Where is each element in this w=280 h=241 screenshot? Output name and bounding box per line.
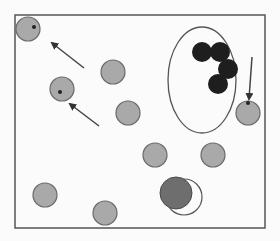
gray-particle (50, 77, 74, 101)
marker-dot (246, 101, 250, 105)
black-particle (208, 74, 228, 94)
gray-particle (16, 17, 40, 41)
gray-particle (93, 201, 117, 225)
gray-particle (116, 101, 140, 125)
motion-arrow (52, 43, 84, 68)
marker-dot (58, 90, 62, 94)
particle-diagram (0, 0, 280, 241)
black-particle (192, 42, 212, 62)
motion-arrow (249, 57, 252, 99)
gray-particle (33, 183, 57, 207)
large-dark-particle (160, 177, 192, 209)
gray-particle (101, 60, 125, 84)
marker-dot (32, 25, 36, 29)
motion-arrow (70, 104, 99, 126)
black-cluster (192, 42, 238, 94)
gray-particle (143, 143, 167, 167)
gray-particle (201, 143, 225, 167)
black-particle (210, 42, 230, 62)
